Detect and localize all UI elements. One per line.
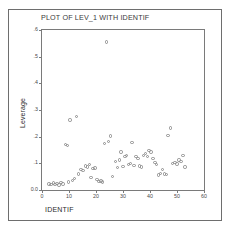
scatter-point <box>103 142 106 145</box>
y-axis-title: Leverage <box>19 98 26 128</box>
scatter-point <box>125 154 128 157</box>
x-axis-tick-label: 0 <box>41 194 44 199</box>
scatter-point <box>105 40 108 43</box>
scatter-plot-area <box>42 30 204 190</box>
scatter-point <box>101 180 104 183</box>
y-axis-tick-label: .2 <box>34 134 38 139</box>
y-axis-tick-label: 0.0 <box>31 187 38 192</box>
scatter-point <box>140 165 143 168</box>
scatter-point <box>166 134 169 137</box>
scatter-point <box>149 150 152 153</box>
x-axis-tick-label: 40 <box>147 194 153 199</box>
scatter-point <box>169 126 172 129</box>
x-axis-tick-label: 30 <box>120 194 126 199</box>
y-axis-tick-label: .4 <box>34 81 38 86</box>
y-axis-tick-label: .3 <box>34 107 38 112</box>
x-axis-title: IDENTIF <box>45 206 74 213</box>
y-axis-tick-label: .1 <box>34 161 38 166</box>
scatter-point <box>132 164 135 167</box>
x-axis-tick-label: 60 <box>201 194 207 199</box>
scatter-point <box>107 140 110 143</box>
y-axis-tick <box>39 163 42 164</box>
scatter-point <box>155 163 158 166</box>
scatter-point <box>183 165 186 168</box>
scatter-point <box>118 158 121 161</box>
scatter-point <box>179 160 182 163</box>
scatter-point <box>181 154 184 157</box>
scatter-point <box>121 165 124 168</box>
scatter-point <box>77 172 80 175</box>
scatter-point <box>111 175 114 178</box>
plot-frame: 0.0.1.2.3.4.5.60102030405060 <box>41 29 205 191</box>
y-axis-tick-label: .5 <box>34 54 38 59</box>
scatter-point <box>151 157 154 160</box>
x-axis-tick-label: 10 <box>66 194 72 199</box>
scatter-point <box>109 134 112 137</box>
scatter-point <box>130 141 133 144</box>
scatter-point <box>93 166 96 169</box>
scatter-point <box>136 157 139 160</box>
scatter-point <box>161 168 164 171</box>
scatter-point <box>175 162 178 165</box>
y-axis-tick <box>39 57 42 58</box>
scatter-point <box>75 115 78 118</box>
x-axis-tick-label: 50 <box>174 194 180 199</box>
scatter-point <box>119 150 122 153</box>
scatter-point <box>114 160 117 163</box>
y-axis-tick <box>39 30 42 31</box>
y-axis-tick <box>39 110 42 111</box>
scatter-point <box>73 177 76 180</box>
chart-window: PLOT OF LEV_1 WITH IDENTIF 0.0.1.2.3.4.5… <box>0 0 233 236</box>
page-title: PLOT OF LEV_1 WITH IDENTIF <box>41 13 201 22</box>
scatter-point <box>88 163 91 166</box>
scatter-point <box>81 169 84 172</box>
scatter-point <box>165 173 168 176</box>
y-axis-tick-label: .6 <box>34 27 38 32</box>
y-axis-tick <box>39 137 42 138</box>
scatter-point <box>146 155 149 158</box>
x-axis-tick-label: 20 <box>93 194 99 199</box>
scatter-point <box>61 182 64 185</box>
scatter-point <box>159 172 162 175</box>
scatter-point <box>68 118 71 121</box>
scatter-point <box>89 176 92 179</box>
scatter-point <box>66 144 69 147</box>
y-axis-tick <box>39 83 42 84</box>
scatter-point <box>67 180 70 183</box>
scatter-point <box>116 166 119 169</box>
